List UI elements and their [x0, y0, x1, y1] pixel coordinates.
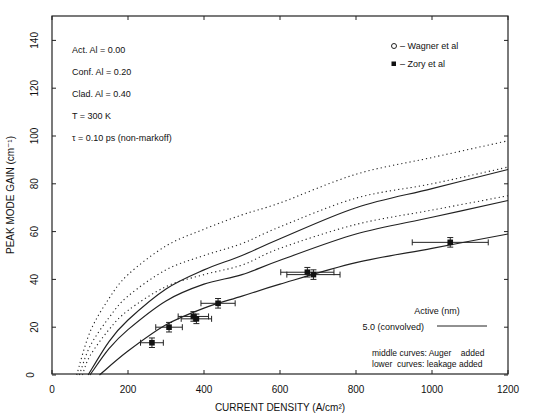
x-axis-label: CURRENT DENSITY (A/cm²) [215, 402, 345, 413]
y-tick-label: 40 [29, 273, 40, 285]
y-tick-label: 140 [29, 32, 40, 49]
line-legend: Active (nm) 5.0 (convolved) middle curve… [362, 306, 487, 369]
x-tick-label: 200 [120, 384, 137, 395]
y-axis-label: PEAK MODE GAIN (cm⁻¹) [5, 136, 16, 254]
data-point-zory [281, 267, 334, 277]
tick-labels: 020040060080010001200020406080100120140 [25, 32, 520, 395]
annotation-temperature: T = 300 K [72, 111, 111, 121]
legend-note-leakage: lower curves: leakage added [372, 359, 483, 369]
marker-legend: – Wagner et al – Zory et al [392, 41, 459, 69]
y-tick-label: 20 [29, 321, 40, 333]
filled-square-marker-icon [447, 240, 453, 246]
data-point-zory [412, 238, 488, 248]
model-curves [77, 141, 508, 375]
legend-note-auger: middle curves: Auger added [372, 348, 485, 358]
y-tick-label: 120 [29, 79, 40, 96]
annotations: Act. Al = 0.00 Conf. Al = 0.20 Clad. Al … [72, 45, 172, 143]
x-tick-label: 600 [272, 384, 289, 395]
filled-square-marker-icon [215, 301, 221, 307]
legend-lines-title: Active (nm) [414, 306, 460, 316]
annotation-active: Act. Al = 0.00 [72, 45, 125, 55]
legend-line-label: 5.0 (convolved) [362, 322, 424, 332]
dotted-curve [77, 141, 508, 375]
annotation-confinement: Conf. Al = 0.20 [72, 67, 131, 77]
data-points [141, 238, 489, 348]
x-tick-label: 1000 [421, 384, 444, 395]
filled-square-marker-icon [194, 316, 200, 322]
x-tick-label: 0 [49, 384, 55, 395]
annotation-tau: τ = 0.10 ps (non-markoff) [72, 133, 172, 143]
x-tick-label: 800 [348, 384, 365, 395]
gain-vs-current-chart: 020040060080010001200020406080100120140 … [0, 0, 533, 419]
filled-square-marker-icon [311, 272, 317, 278]
x-tick-label: 400 [196, 384, 213, 395]
y-tick-label: 100 [29, 127, 40, 144]
y-tick-label: 80 [29, 178, 40, 190]
annotation-cladding: Clad. Al = 0.40 [72, 89, 131, 99]
filled-square-marker-icon [149, 340, 155, 346]
y-tick-label: 0 [25, 372, 36, 378]
filled-square-marker-icon [392, 62, 397, 67]
open-circle-marker-icon [392, 44, 397, 49]
y-tick-label: 60 [29, 226, 40, 238]
data-point-zory [156, 322, 183, 332]
legend-zory: – Zory et al [400, 59, 445, 69]
legend-wagner: – Wagner et al [400, 41, 458, 51]
filled-square-marker-icon [166, 324, 172, 330]
data-point-zory [178, 312, 208, 322]
x-tick-label: 1200 [497, 384, 520, 395]
data-point-zory [287, 270, 340, 280]
